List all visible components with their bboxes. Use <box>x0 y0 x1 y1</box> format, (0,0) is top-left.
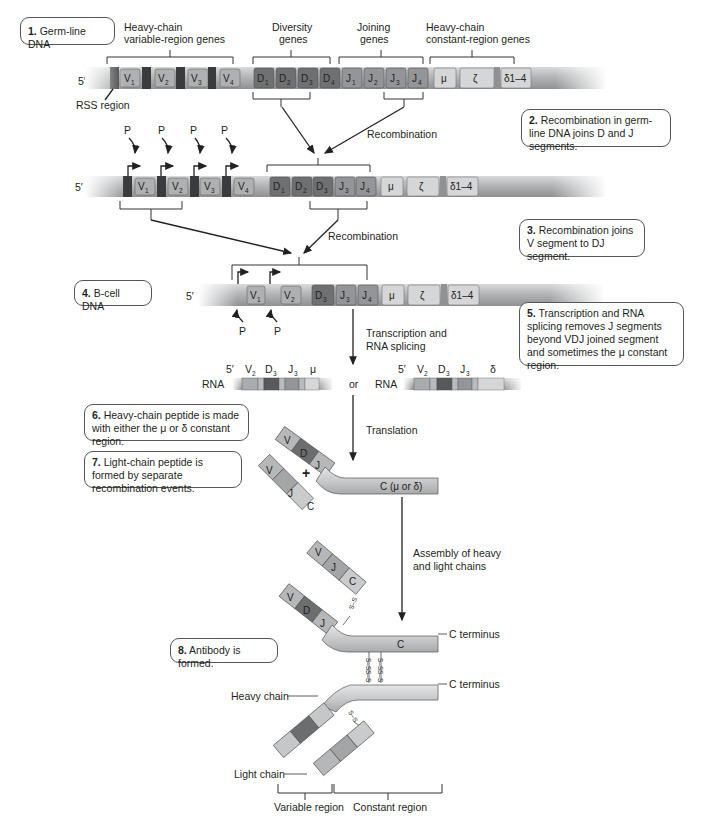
svg-text:1: 1 <box>131 79 135 86</box>
svg-text:5′: 5′ <box>226 363 234 375</box>
rna-delta: RNA 5′ V2 D3 J3 δ <box>375 363 523 391</box>
or-label: or <box>349 378 359 390</box>
step-number: 1. <box>28 25 37 37</box>
svg-text:4: 4 <box>245 187 249 194</box>
svg-text:3: 3 <box>309 79 313 86</box>
step-text: Light-chain peptide is formed by separat… <box>92 456 203 494</box>
svg-text:D: D <box>257 73 264 84</box>
row1-group-labels: Heavy-chain variable-region genes Divers… <box>76 21 530 111</box>
svg-text:J: J <box>331 562 336 573</box>
svg-text:P: P <box>124 124 131 136</box>
svg-text:D: D <box>273 181 280 192</box>
svg-text:5′: 5′ <box>75 181 83 193</box>
svg-text:3: 3 <box>466 370 470 377</box>
svg-text:Heavy-chain: Heavy-chain <box>124 21 183 33</box>
svg-text:2: 2 <box>179 187 183 194</box>
svg-text:1: 1 <box>145 187 149 194</box>
assembled-heavy-chain: V D J C C terminus <box>279 584 500 652</box>
svg-text:J: J <box>346 73 351 84</box>
svg-text:4: 4 <box>230 79 234 86</box>
svg-text:3: 3 <box>345 187 349 194</box>
assembled-light-chain: V J C <box>307 541 366 594</box>
step-number: 4. <box>82 287 91 299</box>
svg-text:D: D <box>279 73 286 84</box>
svg-text:3: 3 <box>323 296 327 303</box>
svg-text:δ1–4: δ1–4 <box>451 290 474 301</box>
svg-text:V: V <box>250 290 257 301</box>
svg-text:J: J <box>460 363 465 375</box>
svg-text:2: 2 <box>424 370 428 377</box>
svg-text:V: V <box>124 73 131 84</box>
svg-text:δ1–4: δ1–4 <box>504 73 527 84</box>
transcription-arrow: Transcription and RNA splicing <box>353 309 447 364</box>
svg-text:S–S: S–S <box>365 670 372 683</box>
antibody-bottom: C terminus Heavy chain S–S Light chain V… <box>231 678 500 813</box>
step-3-box: 3. Recombination joins V segment to DJ s… <box>519 219 645 257</box>
svg-text:3: 3 <box>273 370 277 377</box>
svg-text:V: V <box>172 181 179 192</box>
svg-text:J: J <box>362 290 367 301</box>
step-number: 7. <box>92 456 101 468</box>
svg-text:3: 3 <box>211 187 215 194</box>
svg-text:2: 2 <box>252 370 256 377</box>
plus-sign: + <box>302 465 310 481</box>
constant-region-label: Constant region <box>353 801 427 813</box>
svg-text:V: V <box>287 592 294 603</box>
svg-text:J: J <box>368 73 373 84</box>
svg-text:J: J <box>288 363 293 375</box>
svg-text:C terminus: C terminus <box>449 678 500 690</box>
svg-text:1: 1 <box>281 187 285 194</box>
c-segments: μ ζ δ1–4 <box>434 67 531 89</box>
promoter-up-arrow-2 <box>271 310 277 322</box>
step-text: Recombination in germ-line DNA joins D a… <box>529 114 652 152</box>
svg-text:P: P <box>221 124 228 136</box>
step-number: 2. <box>529 114 538 126</box>
dj-bracket <box>267 158 370 172</box>
svg-text:Diversity: Diversity <box>272 21 313 33</box>
svg-text:genes: genes <box>279 33 308 45</box>
svg-text:D: D <box>300 448 307 459</box>
svg-text:V: V <box>284 290 291 301</box>
svg-text:RNA splicing: RNA splicing <box>366 340 426 352</box>
svg-text:2: 2 <box>303 187 307 194</box>
svg-text:S–S: S–S <box>365 658 372 671</box>
svg-text:and light chains: and light chains <box>413 560 486 572</box>
svg-text:J: J <box>360 181 365 192</box>
variable-region-label: Variable region <box>274 801 344 813</box>
svg-text:ζ: ζ <box>420 290 425 302</box>
svg-text:C (μ or δ): C (μ or δ) <box>380 481 422 492</box>
rss-label: RSS region <box>76 99 130 111</box>
svg-text:δ: δ <box>490 363 496 375</box>
svg-text:μ: μ <box>388 181 394 192</box>
svg-text:Heavy-chain: Heavy-chain <box>426 21 485 33</box>
svg-text:V: V <box>417 363 424 375</box>
recombination-arrow-1: Recombination <box>282 107 437 153</box>
v-segments: V1 V2 V3 V4 <box>110 67 240 89</box>
svg-text:J: J <box>339 181 344 192</box>
svg-text:variable-region genes: variable-region genes <box>124 33 225 45</box>
heavy-chain-label: Heavy chain <box>231 690 289 702</box>
svg-text:δ1–4: δ1–4 <box>450 181 473 192</box>
svg-text:J: J <box>390 73 395 84</box>
svg-text:2: 2 <box>165 79 169 86</box>
svg-text:ζ: ζ <box>473 73 478 85</box>
disulfide-line <box>343 616 350 625</box>
svg-text:V: V <box>204 181 211 192</box>
svg-text:4: 4 <box>331 79 335 86</box>
svg-text:3: 3 <box>294 370 298 377</box>
svg-text:Assembly of heavy: Assembly of heavy <box>413 547 502 559</box>
svg-text:4: 4 <box>368 296 372 303</box>
svg-text:constant-region genes: constant-region genes <box>426 33 530 45</box>
svg-text:genes: genes <box>360 33 389 45</box>
svg-text:Recombination: Recombination <box>328 230 398 242</box>
svg-text:4: 4 <box>366 187 370 194</box>
step-6-box: 6. Heavy-chain peptide is made with eith… <box>84 404 249 441</box>
step-text: Transcription and RNA splicing removes J… <box>527 307 667 371</box>
translation-arrow: Translation <box>353 395 418 460</box>
step-8-box: 8. Antibody is formed. <box>170 638 278 663</box>
svg-text:Transcription and: Transcription and <box>366 327 447 339</box>
germline-dna-strand: 5′ V1 V2 V3 V4 D1 D2 D3 D4 <box>78 66 607 90</box>
promoter-up-arrow-1 <box>237 310 243 322</box>
step-4-box: 4. B-cell DNA <box>74 280 152 306</box>
rna-mu: RNA 5′ V2 D3 J3 μ <box>202 363 334 391</box>
